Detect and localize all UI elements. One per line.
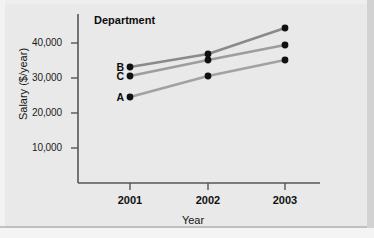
series-label-A: A [108, 91, 124, 103]
data-point [127, 94, 134, 101]
legend-title: Department [94, 14, 155, 26]
x-tick-label-2002: 2002 [178, 194, 238, 206]
y-tick-label-20000: 20,000 [2, 107, 62, 118]
data-point [205, 57, 212, 64]
data-point [282, 42, 289, 49]
y-tick-label-30000: 30,000 [2, 72, 62, 83]
data-point [282, 25, 289, 32]
y-tick-label-40000: 40,000 [2, 37, 62, 48]
series-label-C: C [108, 70, 124, 82]
data-point [205, 73, 212, 80]
chart-figure: Department 40,000 30,000 20,000 10,000 2… [0, 0, 374, 238]
x-tick-label-2003: 2003 [255, 194, 315, 206]
y-tick-label-10000: 10,000 [2, 142, 62, 153]
x-tick-label-2001: 2001 [100, 194, 160, 206]
y-axis-ticks [71, 43, 78, 148]
x-axis-ticks [130, 183, 285, 190]
data-point [127, 73, 134, 80]
data-point [127, 64, 134, 71]
y-axis-title: Salary ($/year) [17, 24, 29, 144]
data-point [205, 51, 212, 58]
x-axis-title: Year [148, 214, 238, 226]
data-point [282, 57, 289, 64]
plot-area: Department 40,000 30,000 20,000 10,000 2… [0, 0, 374, 238]
